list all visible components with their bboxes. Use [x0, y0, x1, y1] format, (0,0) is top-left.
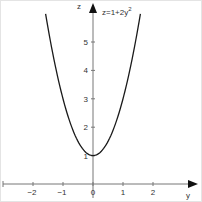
x-tick-label: 0 [91, 188, 96, 197]
y-tick-label: 2 [84, 123, 89, 132]
x-tick-label: 1 [121, 188, 126, 197]
y-tick-label: 3 [84, 95, 89, 104]
x-tick-label: −2 [27, 188, 37, 197]
x-tick-label: 2 [151, 188, 156, 197]
y-tick-label: 5 [84, 38, 89, 47]
vertical-axis-arrow-icon [89, 3, 97, 13]
y-axis-label: y [186, 191, 190, 200]
y-tick-label: 4 [84, 66, 89, 75]
x-tick-label: −1 [57, 188, 67, 197]
equation-label: z=1+2y2 [102, 6, 132, 17]
horizontal-axis-arrow-icon [188, 180, 198, 188]
z-axis-label: z [77, 2, 81, 11]
parabola-chart: −2−1012 12345 z y z=1+2y2 [0, 0, 202, 202]
